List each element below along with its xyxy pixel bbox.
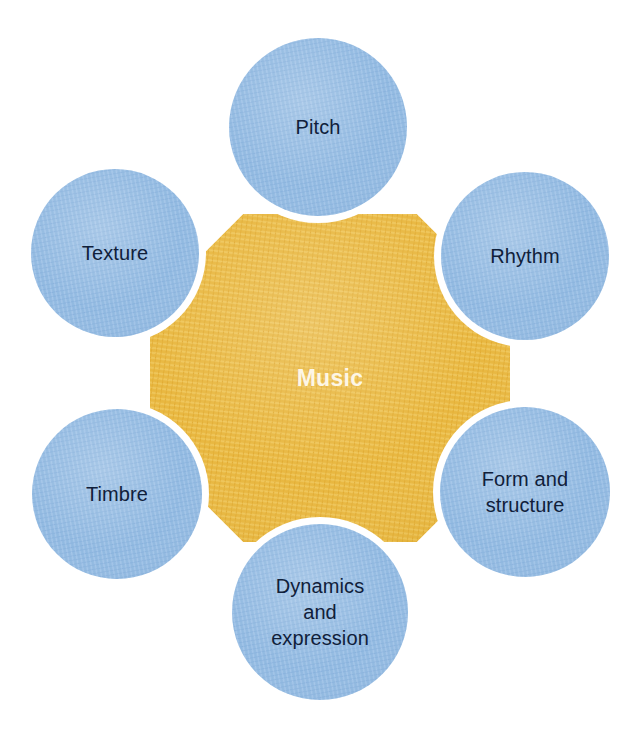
node-circle-texture[interactable] xyxy=(31,169,199,337)
node-circle-form-and-structure[interactable] xyxy=(440,407,610,577)
music-elements-diagram: Music Pitch Rhythm Form and structure Dy… xyxy=(0,0,642,732)
node-circle-dynamics-and-expression[interactable] xyxy=(232,524,408,700)
node-circle-pitch[interactable] xyxy=(229,38,407,216)
diagram-canvas xyxy=(0,0,642,732)
node-circle-timbre[interactable] xyxy=(32,409,202,579)
node-circle-rhythm[interactable] xyxy=(441,172,609,340)
